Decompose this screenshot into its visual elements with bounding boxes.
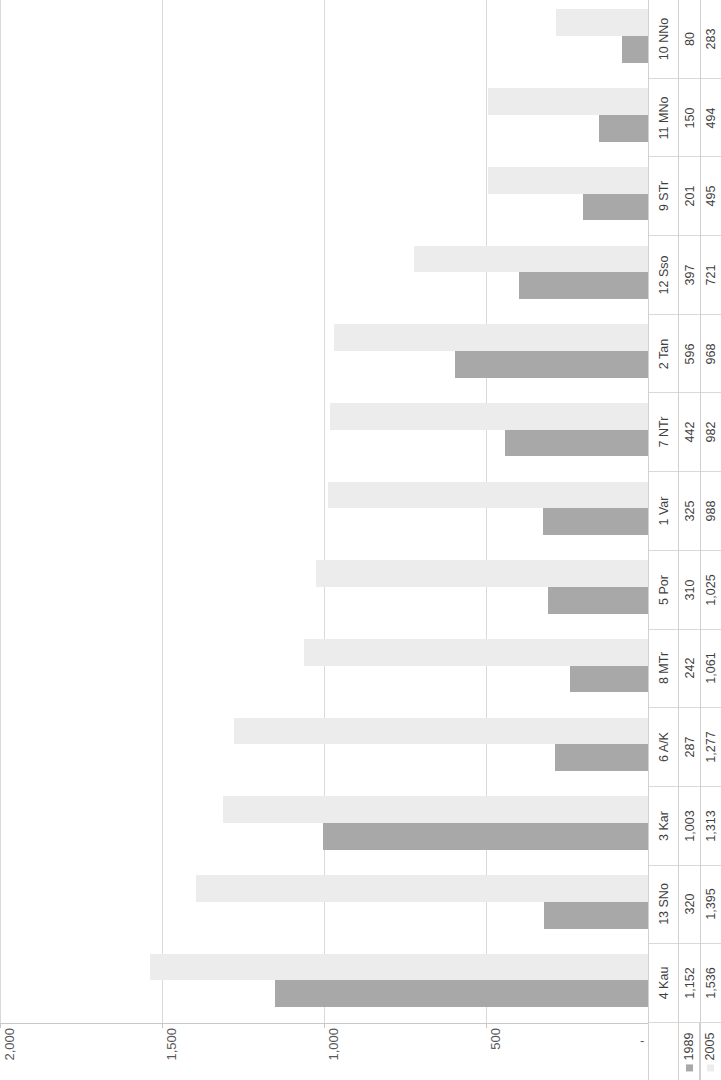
axis-tick-label: 500 bbox=[488, 1028, 504, 1080]
plot-area bbox=[0, 0, 648, 1023]
table-cell-2005: 495 bbox=[701, 157, 721, 236]
table-cell-1989-text: 596 bbox=[683, 343, 697, 364]
table-cell-2005-text: 494 bbox=[704, 107, 718, 128]
table-cell-1989-text: 242 bbox=[683, 658, 697, 679]
table-cell-1989-text: 310 bbox=[683, 579, 697, 600]
tick-mark-2000 bbox=[0, 1023, 1, 1028]
table-cell-2005: 1,061 bbox=[701, 630, 721, 709]
axis-tick-label: 2,000 bbox=[2, 1028, 18, 1080]
bar-group bbox=[0, 787, 648, 866]
table-cell-category-text: 3 Kar bbox=[657, 811, 671, 841]
bar-2005 bbox=[334, 324, 648, 351]
bar-group bbox=[0, 0, 648, 79]
data-table: 10 NNo11 MNo9 STr12 Sso2 Tan7 NTr1 Var5 … bbox=[648, 0, 720, 1080]
bar-group bbox=[0, 866, 648, 945]
table-cell-2005: 1,395 bbox=[701, 866, 721, 945]
table-cell-2005: 494 bbox=[701, 79, 721, 158]
table-column-1989: 801502013975964423253102422871,0033201,1… bbox=[679, 0, 701, 1080]
legend-inner: 2005 bbox=[703, 1032, 717, 1071]
bar-group bbox=[0, 79, 648, 158]
table-cell-2005: 968 bbox=[701, 315, 721, 394]
table-cell-category-text: 10 NNo bbox=[657, 18, 671, 60]
axis-tick-label: 1,000 bbox=[326, 1028, 342, 1080]
table-cell-2005-text: 283 bbox=[704, 28, 718, 49]
table-cell-1989: 596 bbox=[679, 315, 700, 394]
bar-1989 bbox=[543, 508, 648, 535]
bar-2005 bbox=[196, 875, 648, 902]
table-cell-category-text: 2 Tan bbox=[657, 338, 671, 368]
legend-swatch-icon bbox=[707, 1064, 714, 1071]
table-cell-category: 3 Kar bbox=[649, 787, 678, 866]
bar-2005 bbox=[234, 718, 648, 745]
legend-entry-1989[interactable]: 1989 bbox=[678, 1023, 700, 1080]
table-cell-2005-text: 1,025 bbox=[704, 574, 718, 605]
table-cell-category: 1 Var bbox=[649, 472, 678, 551]
bar-1989 bbox=[622, 36, 648, 63]
table-cell-2005-text: 982 bbox=[704, 422, 718, 443]
table-cell-2005-text: 495 bbox=[704, 186, 718, 207]
bar-1989 bbox=[323, 823, 648, 850]
table-cell-1989-text: 397 bbox=[683, 264, 697, 285]
bar-group bbox=[0, 315, 648, 394]
bar-2005 bbox=[316, 560, 648, 587]
table-cell-2005: 283 bbox=[701, 0, 721, 79]
bar-2005 bbox=[488, 88, 648, 115]
table-cell-2005: 1,536 bbox=[701, 944, 721, 1023]
table-cell-2005: 1,025 bbox=[701, 551, 721, 630]
bar-2005 bbox=[304, 639, 648, 666]
bar-1989 bbox=[455, 351, 648, 378]
table-cell-2005-text: 1,061 bbox=[704, 653, 718, 684]
table-cell-1989-text: 150 bbox=[683, 107, 697, 128]
table-cell-1989-text: 320 bbox=[683, 894, 697, 915]
legend-swatch-icon bbox=[685, 1064, 692, 1071]
table-column-category: 10 NNo11 MNo9 STr12 Sso2 Tan7 NTr1 Var5 … bbox=[649, 0, 679, 1080]
table-cell-2005-text: 1,395 bbox=[704, 889, 718, 920]
bar-2005 bbox=[556, 9, 648, 36]
bar-1989 bbox=[275, 980, 648, 1007]
table-cell-1989: 310 bbox=[679, 551, 700, 630]
table-cell-category: 11 MNo bbox=[649, 79, 678, 158]
table-cell-1989-text: 201 bbox=[683, 186, 697, 207]
table-cell-category-text: 9 STr bbox=[657, 181, 671, 211]
bar-1989 bbox=[548, 587, 648, 614]
table-cell-1989: 80 bbox=[679, 0, 700, 79]
bar-group bbox=[0, 157, 648, 236]
legend-label: 2005 bbox=[703, 1032, 717, 1060]
tick-mark-500 bbox=[486, 1023, 487, 1028]
bar-1989 bbox=[570, 666, 648, 693]
table-cell-category: 5 Por bbox=[649, 551, 678, 630]
table-cell-category-text: 8 MTr bbox=[657, 652, 671, 684]
bar-1989 bbox=[519, 272, 648, 299]
bar-1989 bbox=[583, 194, 648, 221]
table-cell-1989-text: 325 bbox=[683, 501, 697, 522]
table-cell-2005-text: 1,313 bbox=[704, 810, 718, 841]
table-cell-1989-text: 442 bbox=[683, 422, 697, 443]
table-cell-category: 6 A/K bbox=[649, 708, 678, 787]
bar-group bbox=[0, 630, 648, 709]
table-cell-1989-text: 1,152 bbox=[683, 968, 697, 999]
table-cell-1989-text: 287 bbox=[683, 737, 697, 758]
table-cell-category-text: 1 Var bbox=[657, 497, 671, 526]
legend: 19892005 bbox=[648, 1023, 720, 1080]
table-cell-1989: 1,152 bbox=[679, 944, 700, 1023]
table-cell-1989: 320 bbox=[679, 866, 700, 945]
table-cell-1989: 397 bbox=[679, 236, 700, 315]
table-cell-1989: 150 bbox=[679, 79, 700, 158]
table-cell-category: 10 NNo bbox=[649, 0, 678, 79]
bar-1989 bbox=[505, 430, 648, 457]
table-cell-1989-text: 1,003 bbox=[683, 810, 697, 841]
table-cell-category: 12 Sso bbox=[649, 236, 678, 315]
table-cell-2005: 1,313 bbox=[701, 787, 721, 866]
bar-2005 bbox=[488, 167, 648, 194]
legend-entry-2005[interactable]: 2005 bbox=[700, 1023, 720, 1080]
table-cell-1989: 287 bbox=[679, 708, 700, 787]
table-cell-1989: 442 bbox=[679, 393, 700, 472]
bar-group bbox=[0, 944, 648, 1023]
table-cell-category-text: 11 MNo bbox=[657, 96, 671, 139]
table-cell-1989-text: 80 bbox=[683, 32, 697, 46]
table-cell-category-text: 7 NTr bbox=[657, 417, 671, 448]
bar-1989 bbox=[544, 902, 648, 929]
tick-mark-1000 bbox=[324, 1023, 325, 1028]
table-cell-category-text: 12 Sso bbox=[657, 255, 671, 294]
